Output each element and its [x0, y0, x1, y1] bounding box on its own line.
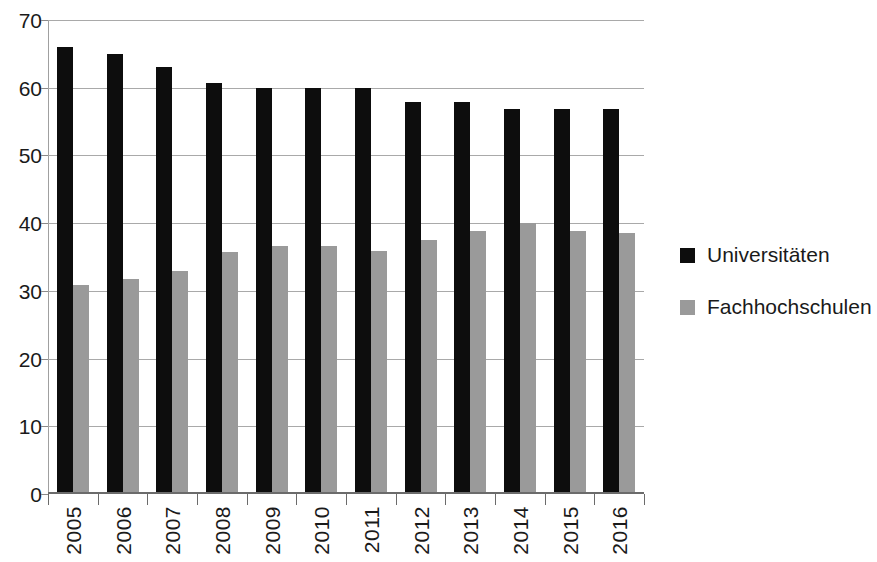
bar — [305, 88, 321, 494]
legend-item-fachhochschulen: Fachhochschulen — [680, 295, 877, 319]
legend-swatch-fachhochschulen-icon — [680, 300, 695, 315]
x-axis-ticks — [48, 494, 644, 506]
bar — [603, 109, 619, 494]
plot-area — [48, 20, 644, 494]
x-axis-tick-mark — [644, 494, 645, 505]
bar — [272, 246, 288, 495]
bar — [172, 271, 188, 494]
bar — [156, 67, 172, 494]
y-axis-tick-label: 70 — [2, 10, 42, 31]
y-axis-tick-label: 40 — [2, 213, 42, 234]
y-axis-tick-mark — [41, 88, 48, 89]
y-axis-tick-mark — [41, 223, 48, 224]
bar-group — [554, 20, 586, 494]
bar — [256, 88, 272, 494]
x-axis-tick-mark — [495, 494, 496, 505]
legend-item-universitaeten: Universitäten — [680, 243, 877, 267]
bar — [123, 279, 139, 494]
chart-legend: Universitäten Fachhochschulen — [680, 243, 877, 347]
bar — [454, 102, 470, 494]
bar-chart: 010203040506070 200520062007200820092010… — [0, 0, 877, 562]
bar-group — [603, 20, 635, 494]
legend-swatch-universitaeten-icon — [680, 248, 695, 263]
y-axis-tick-label: 10 — [2, 416, 42, 437]
x-axis-tick-mark — [396, 494, 397, 505]
bar — [57, 47, 73, 494]
x-axis-tick-label: 2006 — [112, 506, 136, 555]
x-axis-tick-mark — [296, 494, 297, 505]
x-axis-tick-mark — [98, 494, 99, 505]
bar — [470, 231, 486, 494]
bar-group — [355, 20, 387, 494]
x-axis-tick-label: 2009 — [261, 506, 285, 555]
bar — [222, 252, 238, 494]
bar — [570, 231, 586, 494]
bar-group — [156, 20, 188, 494]
bar — [206, 83, 222, 494]
y-axis-tick-label: 60 — [2, 77, 42, 98]
x-axis-tick-mark — [147, 494, 148, 505]
bar — [619, 233, 635, 494]
x-axis-tick-label: 2013 — [459, 506, 483, 555]
bar — [504, 109, 520, 494]
bar — [107, 54, 123, 494]
bar — [421, 240, 437, 494]
bar-group — [57, 20, 89, 494]
bar-group — [454, 20, 486, 494]
y-axis-tick-mark — [41, 155, 48, 156]
bar — [554, 109, 570, 494]
x-axis-tick-mark — [48, 494, 49, 505]
bar — [371, 251, 387, 494]
y-axis-tick-mark — [41, 20, 48, 21]
x-axis-tick-mark — [247, 494, 248, 505]
x-axis-tick-label: 2005 — [62, 506, 86, 555]
y-axis-tick-mark — [41, 291, 48, 292]
bar — [520, 223, 536, 494]
x-axis-tick-label: 2015 — [559, 506, 583, 555]
x-axis-tick-label: 2008 — [211, 506, 235, 555]
x-axis-tick-mark — [346, 494, 347, 505]
legend-label-fachhochschulen: Fachhochschulen — [707, 295, 872, 319]
x-axis-tick-label: 2016 — [608, 506, 632, 555]
bars-layer — [48, 20, 644, 494]
bar-group — [305, 20, 337, 494]
bar — [321, 246, 337, 495]
bar — [405, 102, 421, 494]
legend-label-universitaeten: Universitäten — [707, 243, 830, 267]
x-axis-tick-label: 2012 — [410, 506, 434, 555]
x-axis-tick-mark — [197, 494, 198, 505]
x-axis-tick-mark — [545, 494, 546, 505]
x-axis-tick-label: 2014 — [509, 506, 533, 555]
bar-group — [206, 20, 238, 494]
y-axis-tick-mark — [41, 426, 48, 427]
x-axis-tick-label: 2010 — [310, 506, 334, 555]
y-axis-tick-label: 50 — [2, 145, 42, 166]
x-axis-tick-label: 2007 — [161, 506, 185, 555]
bar — [73, 285, 89, 494]
bar-group — [256, 20, 288, 494]
y-axis: 010203040506070 — [0, 0, 42, 562]
y-axis-tick-label: 30 — [2, 280, 42, 301]
bar — [355, 88, 371, 494]
x-axis-tick-mark — [445, 494, 446, 505]
x-axis-labels: 2005200620072008200920102011201220132014… — [48, 506, 644, 562]
bar-group — [107, 20, 139, 494]
bar-group — [504, 20, 536, 494]
y-axis-tick-mark — [41, 359, 48, 360]
x-axis-tick-mark — [594, 494, 595, 505]
y-axis-tick-mark — [41, 494, 48, 495]
y-axis-tick-label: 0 — [2, 484, 42, 505]
y-axis-tick-label: 20 — [2, 348, 42, 369]
bar-group — [405, 20, 437, 494]
x-axis-tick-label: 2011 — [360, 506, 384, 553]
